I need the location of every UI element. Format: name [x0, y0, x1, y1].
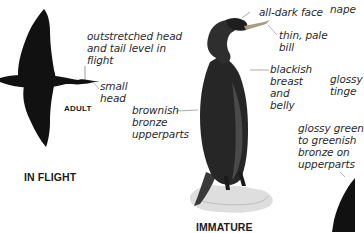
annotation-thin-pale-bill: thin, pale bill: [279, 29, 328, 53]
in-flight-caption: IN FLIGHT: [24, 171, 76, 183]
annotation-brownish-bronze: brownish bronze upperparts: [132, 104, 189, 140]
annotation-glossy-green: glossy green to greenish bronze on upper…: [298, 122, 364, 170]
immature-cormorant-illustration: [190, 18, 273, 213]
annotation-small-head: small head: [100, 80, 127, 104]
annotation-nape: nape: [330, 3, 356, 15]
annotation-outstretched-head: outstretched head and tail level in flig…: [87, 30, 182, 66]
adult-cormorant-partial: [332, 178, 355, 232]
annotation-blackish-breast: blackish breast and belly: [270, 63, 312, 111]
annotation-glossy-tinge: glossy tinge: [330, 73, 363, 97]
immature-caption: IMMATURE: [196, 221, 253, 233]
adult-label: ADULT: [64, 104, 92, 113]
annotation-all-dark-face: all-dark face: [259, 6, 323, 18]
